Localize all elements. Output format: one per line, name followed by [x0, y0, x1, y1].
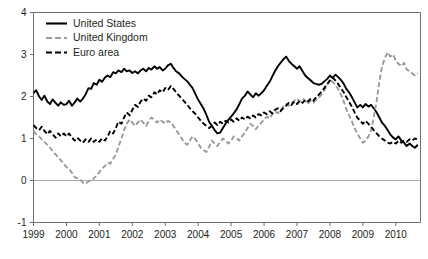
x-tick-label: 2008 — [319, 229, 342, 240]
y-tick-label: 2 — [21, 91, 27, 102]
x-tick-label: 2007 — [286, 229, 309, 240]
y-tick-label: 4 — [21, 7, 27, 18]
x-tick-label: 2009 — [352, 229, 375, 240]
chart-container: 43210-1 19992000200120022003200420052006… — [0, 0, 428, 259]
legend-label-euro-area: Euro area — [73, 46, 119, 58]
x-tick-label: 2010 — [385, 229, 408, 240]
x-tick-label: 2002 — [121, 229, 144, 240]
x-tick-label: 2001 — [88, 229, 111, 240]
y-tick-label: 3 — [21, 49, 27, 60]
legend-label-united-kingdom: United Kingdom — [73, 31, 148, 43]
y-tick-label: 0 — [21, 175, 27, 186]
y-tick-label: 1 — [21, 133, 27, 144]
y-tick-label: -1 — [18, 217, 27, 228]
x-tick-label: 2005 — [220, 229, 243, 240]
line-chart: 43210-1 19992000200120022003200420052006… — [0, 0, 428, 259]
x-tick-label: 2006 — [253, 229, 276, 240]
legend-label-united-states: United States — [73, 17, 136, 29]
x-tick-label: 1999 — [22, 229, 45, 240]
x-tick-label: 2000 — [55, 229, 78, 240]
x-tick-label: 2004 — [187, 229, 210, 240]
x-tick-label: 2003 — [154, 229, 177, 240]
